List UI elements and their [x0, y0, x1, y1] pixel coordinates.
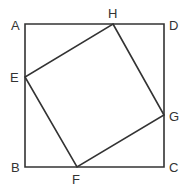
outer-square-abcd — [25, 24, 164, 167]
vertex-label-a: A — [11, 18, 20, 33]
vertex-label-b: B — [11, 160, 20, 175]
vertex-label-g: G — [169, 109, 179, 124]
geometry-diagram: A H D E G B C F — [0, 0, 184, 189]
vertex-label-d: D — [169, 18, 178, 33]
vertex-label-c: C — [169, 160, 178, 175]
vertex-label-h: H — [108, 6, 117, 21]
vertex-label-f: F — [72, 172, 80, 187]
vertex-label-e: E — [10, 70, 19, 85]
inner-square-efgh — [25, 24, 164, 167]
